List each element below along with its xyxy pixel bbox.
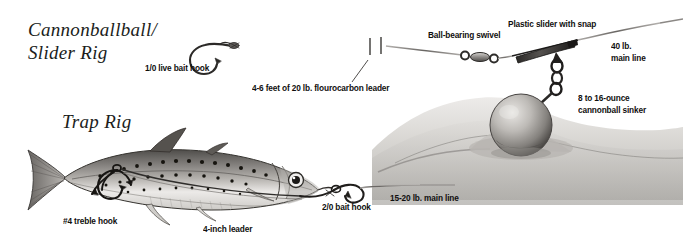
label-main-line-15-20lb: 15-20 lb. main line [390, 193, 459, 205]
rig-leader-line [232, 46, 462, 55]
label-cannonball-sinker: 8 to 16-ounce cannonball sinker [578, 93, 646, 117]
cannonball-sinker-icon [490, 93, 552, 159]
label-bait-hook: 2/0 bait hook [322, 202, 371, 214]
plastic-slider-icon [512, 39, 578, 95]
label-live-bait-hook: 1/0 live bait hook [145, 63, 209, 75]
label-treble-hook: #4 treble hook [63, 216, 117, 228]
label-pointer-lines [352, 60, 368, 82]
label-four-inch-leader: 4-inch leader [203, 224, 252, 236]
label-main-line-40lb: 40 lb. main line [611, 41, 646, 65]
fishing-rig-figure: Cannonballball/ Slider Rig Trap Rig 1/0 … [0, 0, 683, 244]
label-ball-bearing-swivel: Ball-bearing swivel [428, 30, 500, 42]
baitfish-illustration [28, 128, 333, 225]
label-flourocarbon-leader: 4-6 feet of 20 lb. flourocarbon leader [252, 83, 389, 95]
ball-bearing-swivel-icon [461, 52, 512, 63]
trap-rig-title: Trap Rig [62, 110, 131, 133]
label-plastic-slider-with-snap: Plastic slider with snap [508, 19, 596, 31]
cannonball-slider-rig-title: Cannonballball/ Slider Rig [28, 18, 157, 64]
